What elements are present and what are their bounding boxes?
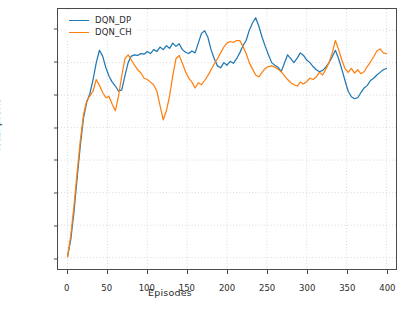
x-tick-mark	[387, 270, 388, 274]
y-tick-mark	[54, 62, 58, 63]
legend-item-dqn-ch[interactable]: DQN_CH	[69, 26, 132, 38]
legend-label-dqn-ch: DQN_CH	[95, 27, 132, 37]
y-tick-mark	[54, 225, 58, 226]
x-tick-mark	[227, 270, 228, 274]
x-tick-label: 350	[339, 283, 355, 293]
legend-label-dqn-dp: DQN_DP	[95, 15, 131, 25]
x-axis-label: Episodes	[148, 287, 192, 298]
chart-legend: DQN_DP DQN_CH	[66, 12, 137, 40]
y-tick-mark	[54, 160, 58, 161]
x-tick-mark	[67, 270, 68, 274]
y-axis-label: Total profit	[0, 100, 2, 153]
x-tick-label: 300	[299, 283, 315, 293]
x-tick-label: 200	[219, 283, 235, 293]
chart-figure: 0.00.10.20.30.40.50.60.70501001502002503…	[0, 0, 411, 312]
x-tick-mark	[187, 270, 188, 274]
y-tick-mark	[54, 258, 58, 259]
x-tick-label: 50	[101, 283, 112, 293]
y-tick-mark	[54, 94, 58, 95]
x-tick-mark	[347, 270, 348, 274]
y-tick-mark	[54, 127, 58, 128]
x-tick-label: 250	[259, 283, 275, 293]
y-tick-mark	[54, 29, 58, 30]
x-tick-label: 0	[64, 283, 69, 293]
x-tick-label: 400	[379, 283, 395, 293]
legend-line-icon-dqn-dp	[69, 20, 89, 21]
x-tick-mark	[107, 270, 108, 274]
axes-decoration: 0.00.10.20.30.40.50.60.70501001502002503…	[57, 8, 397, 270]
x-tick-mark	[267, 270, 268, 274]
x-tick-mark	[307, 270, 308, 274]
x-tick-mark	[147, 270, 148, 274]
legend-item-dqn-dp[interactable]: DQN_DP	[69, 14, 132, 26]
legend-line-icon-dqn-ch	[69, 32, 89, 33]
y-tick-mark	[54, 193, 58, 194]
